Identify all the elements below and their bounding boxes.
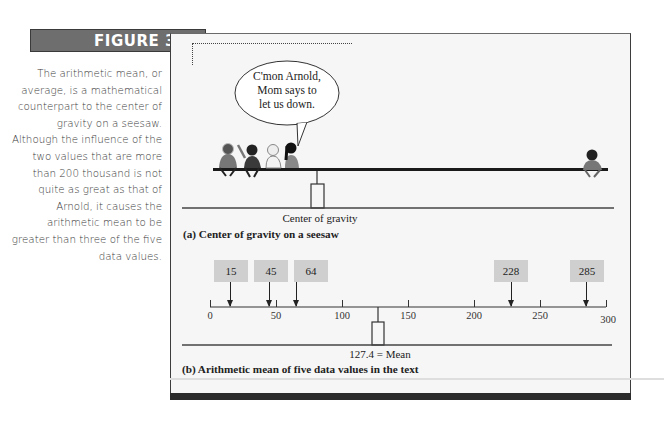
tick-label: 0	[195, 310, 225, 321]
tick	[540, 300, 541, 307]
panel-a-caption: (a) Center of gravity on a seesaw	[183, 228, 339, 240]
panel-b-caption: (b) Arithmetic mean of five data values …	[182, 363, 418, 375]
value-box-15: 15	[214, 260, 248, 282]
arrow-down-icon	[511, 282, 512, 306]
value-box-228: 228	[494, 260, 528, 282]
arrow-down-icon	[296, 282, 297, 306]
value-box-64: 64	[294, 260, 328, 282]
fulcrum-b	[372, 322, 384, 345]
bubble-line-2: Mom says to	[237, 83, 337, 97]
arrow-down-icon	[269, 282, 270, 306]
arnold-figure	[583, 150, 602, 178]
tick-label: 200	[459, 310, 489, 321]
tick	[408, 300, 409, 307]
fulcrum-a	[311, 184, 324, 208]
tick	[210, 300, 211, 307]
tick	[342, 300, 343, 307]
tick-label: 100	[327, 310, 357, 321]
tick-label: 300	[593, 314, 623, 325]
tick	[606, 300, 607, 307]
tick	[474, 300, 475, 307]
arrow-down-icon	[586, 282, 587, 306]
mean-label: 127.4 = Mean	[330, 348, 430, 360]
tick-label: 50	[261, 310, 291, 321]
kids-group	[219, 143, 299, 178]
speech-bubble-text: C'mon Arnold, Mom says to let us down.	[237, 69, 337, 111]
arrow-down-icon	[230, 282, 231, 306]
value-box-285: 285	[570, 260, 604, 282]
value-box-45: 45	[254, 260, 288, 282]
bubble-line-1: C'mon Arnold,	[237, 69, 337, 83]
tick-label: 150	[393, 310, 423, 321]
tick-label: 250	[525, 310, 555, 321]
tick	[276, 300, 277, 307]
bubble-line-3: let us down.	[237, 97, 337, 111]
fulcrum-label: Center of gravity	[265, 212, 375, 224]
